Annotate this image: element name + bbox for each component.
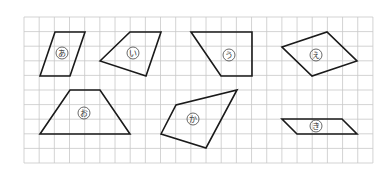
shape-label: あ [58, 49, 66, 58]
shape-label: か [189, 115, 197, 124]
shape-e: え [282, 32, 357, 76]
shape-label: う [225, 51, 233, 60]
grid-canvas: あ い う え お [0, 0, 389, 173]
shape-label: お [80, 109, 88, 118]
shape-label: え [312, 51, 320, 60]
quadrilateral-grid-figure: あ い う え お [0, 0, 389, 173]
shape-a: あ [40, 32, 85, 76]
shape-ki: き [282, 119, 357, 134]
shape-label: い [129, 49, 137, 58]
shape-label: き [312, 122, 320, 131]
